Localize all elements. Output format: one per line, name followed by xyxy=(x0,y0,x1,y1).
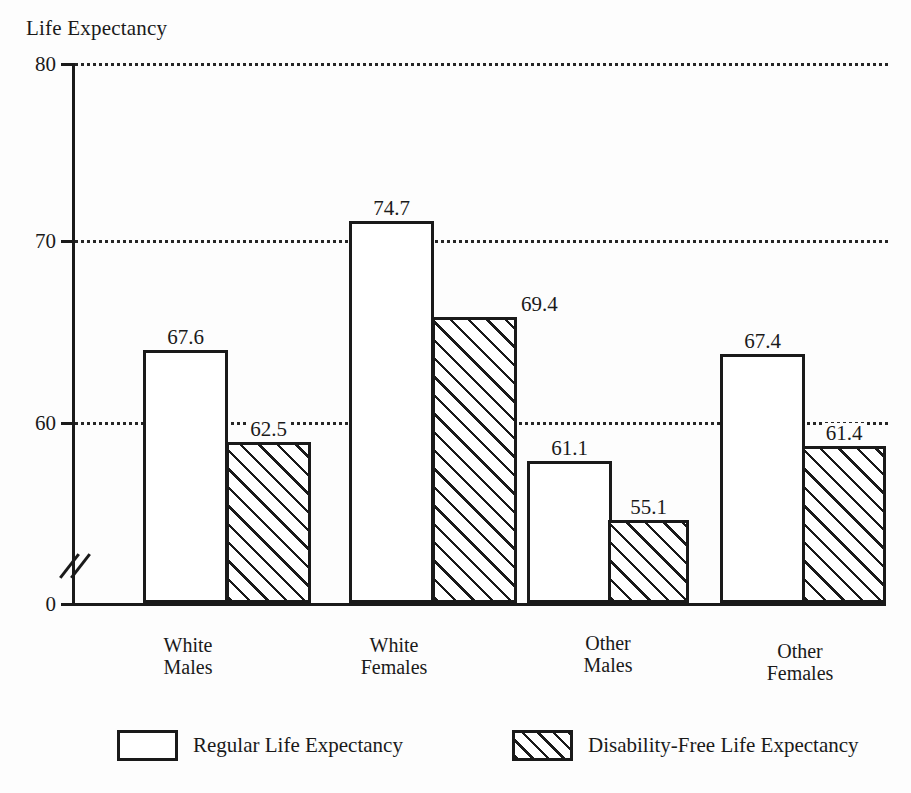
category-label-white-females: White Females xyxy=(361,635,428,678)
category-label-white-females-line2: Females xyxy=(361,657,428,679)
category-label-other-males: Other Males xyxy=(584,633,633,676)
gridline-80 xyxy=(75,63,888,66)
x-axis-line xyxy=(72,603,886,606)
category-label-white-males-line1: White xyxy=(164,635,213,657)
axis-break-icon xyxy=(59,549,93,589)
chart-legend: Regular Life Expectancy Disability-Free … xyxy=(0,724,911,774)
y-tick-mark-70 xyxy=(61,240,72,243)
bar-other-females-regular: 67.4 xyxy=(720,354,805,603)
category-label-other-males-line2: Males xyxy=(584,655,633,677)
hatched-box-swatch-icon xyxy=(512,730,573,761)
category-label-other-males-line1: Other xyxy=(584,633,633,655)
legend-item-disability-free: Disability-Free Life Expectancy xyxy=(512,730,859,761)
bar-white-males-regular: 67.6 xyxy=(143,350,228,603)
bar-value-white-males-regular: 67.6 xyxy=(164,327,207,348)
category-label-other-females-line1: Other xyxy=(767,641,834,663)
open-box-swatch-icon xyxy=(117,730,178,761)
plot-area: 80 70 60 0 67.6 62.5 74.7 xyxy=(72,63,888,605)
bar-white-females-regular: 74.7 xyxy=(349,221,434,603)
bar-value-other-males-disability-free: 55.1 xyxy=(627,497,670,518)
y-tick-mark-80 xyxy=(61,63,72,66)
legend-label-disability-free: Disability-Free Life Expectancy xyxy=(588,733,859,758)
gridline-70 xyxy=(75,240,888,243)
chart-title: Life Expectancy xyxy=(26,16,167,41)
bar-value-white-females-disability-free: 69.4 xyxy=(518,294,561,315)
bar-white-males-disability-free: 62.5 xyxy=(226,442,311,603)
category-label-white-males-line2: Males xyxy=(164,657,213,679)
legend-label-regular: Regular Life Expectancy xyxy=(193,733,403,758)
category-label-white-males: White Males xyxy=(164,635,213,678)
chart-page: Life Expectancy 80 70 60 0 xyxy=(0,0,911,793)
category-label-other-females: Other Females xyxy=(767,641,834,684)
y-tick-label-80: 80 xyxy=(35,52,56,77)
y-tick-label-60: 60 xyxy=(35,411,56,436)
bar-value-other-females-disability-free: 61.4 xyxy=(823,423,866,444)
category-label-other-females-line2: Females xyxy=(767,663,834,685)
legend-item-regular: Regular Life Expectancy xyxy=(117,730,403,761)
bar-value-other-females-regular: 67.4 xyxy=(741,331,784,352)
bar-white-females-disability-free: 69.4 xyxy=(432,317,517,603)
bar-value-white-females-regular: 74.7 xyxy=(370,198,413,219)
bar-other-females-disability-free: 61.4 xyxy=(802,446,886,603)
bar-other-males-disability-free: 55.1 xyxy=(608,520,689,603)
category-label-white-females-line1: White xyxy=(361,635,428,657)
bar-value-white-males-disability-free: 62.5 xyxy=(247,419,290,440)
y-tick-label-70: 70 xyxy=(35,229,56,254)
y-tick-label-0: 0 xyxy=(46,592,57,617)
y-tick-mark-60 xyxy=(61,422,72,425)
bar-value-other-males-regular: 61.1 xyxy=(548,438,591,459)
y-tick-mark-0 xyxy=(61,603,72,606)
bar-other-males-regular: 61.1 xyxy=(527,461,612,603)
y-axis-line xyxy=(72,63,75,605)
